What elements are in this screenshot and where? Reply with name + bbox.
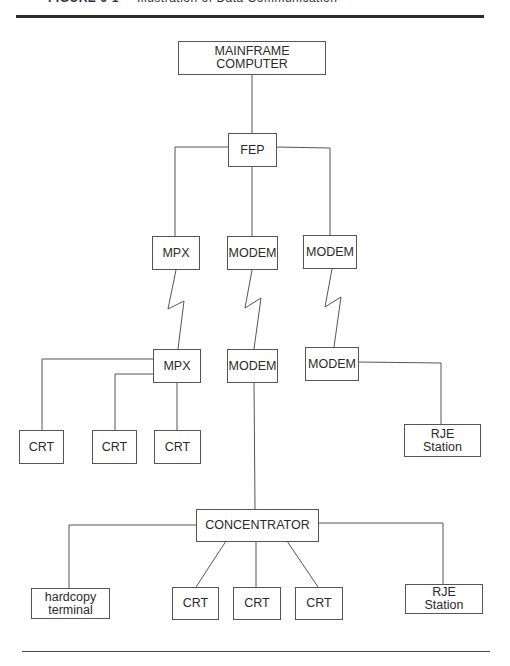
node-label: MODEM: [229, 360, 277, 373]
node-label: CRT: [102, 441, 127, 454]
node-label: MODEM: [229, 247, 277, 260]
node-label: CRT: [29, 441, 54, 454]
concentrator-node: CONCENTRATOR: [196, 509, 319, 542]
mainframe-computer-node: MAINFRAME COMPUTER: [178, 41, 326, 75]
crt-node-mpx-2: CRT: [92, 430, 137, 464]
node-label: FEP: [240, 144, 264, 157]
fep-node: FEP: [228, 133, 277, 167]
crt-node-concentrator-1: CRT: [172, 587, 219, 620]
node-label: CRT: [244, 597, 269, 610]
node-label: MODEM: [306, 246, 354, 259]
modem-node-remote-b: MODEM: [305, 347, 359, 381]
rje-station-node-top: RJE Station: [404, 424, 481, 457]
modem-node-host-b: MODEM: [303, 235, 357, 269]
rje-station-node-bottom: RJE Station: [405, 584, 483, 614]
node-label-line2: terminal: [45, 604, 96, 617]
node-label: CONCENTRATOR: [205, 519, 309, 532]
crt-node-mpx-1: CRT: [19, 430, 64, 464]
node-label: CRT: [306, 597, 331, 610]
hardcopy-terminal-node: hardcopy terminal: [31, 588, 110, 619]
bottom-rule: [22, 651, 490, 652]
mpx-node-remote: MPX: [153, 349, 201, 383]
node-label-line2: Station: [425, 599, 464, 612]
node-label: MAINFRAME COMPUTER: [179, 45, 325, 71]
modem-node-host-a: MODEM: [227, 236, 278, 270]
modem-node-remote-a: MODEM: [227, 349, 278, 383]
node-label: MPX: [162, 247, 189, 260]
node-label: CRT: [165, 441, 190, 454]
crt-node-mpx-3: CRT: [154, 430, 201, 464]
node-label-line2: Station: [423, 441, 462, 454]
node-label: MPX: [163, 360, 190, 373]
crt-node-concentrator-2: CRT: [233, 587, 281, 620]
crt-node-concentrator-3: CRT: [295, 587, 343, 620]
connection-lines: [0, 0, 510, 666]
node-label-line1: RJE: [423, 428, 462, 441]
node-label: MODEM: [308, 358, 356, 371]
mpx-node-host: MPX: [152, 236, 200, 270]
node-label: CRT: [183, 597, 208, 610]
node-label-line1: hardcopy: [45, 591, 96, 604]
